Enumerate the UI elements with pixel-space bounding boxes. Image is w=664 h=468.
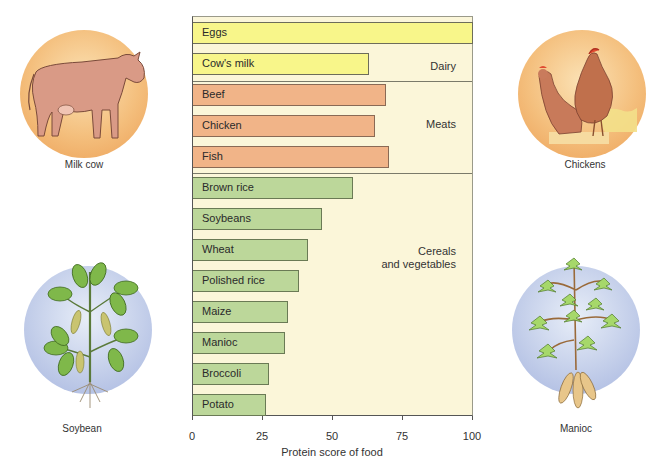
bar-label: Soybeans <box>202 212 251 224</box>
bar-label: Fish <box>202 150 223 162</box>
milk-cow-caption: Milk cow <box>65 159 103 170</box>
tick-label-50: 50 <box>326 430 338 442</box>
bar-polished-rice: Polished rice <box>193 270 299 292</box>
chart-plot-area: Dairy Meats Cereals and vegetables EggsC… <box>192 16 473 416</box>
manioc-plant-icon <box>512 250 642 415</box>
bar-wheat: Wheat <box>193 239 308 261</box>
soybean-caption: Soybean <box>62 423 101 434</box>
bar-label: Maize <box>202 305 231 317</box>
divider-meats-cereals <box>193 173 472 174</box>
tick-50 <box>332 416 333 420</box>
group-label-cereals-line1: Cereals <box>381 245 456 258</box>
bar-label: Wheat <box>202 243 234 255</box>
chicken-icon <box>525 36 645 146</box>
tick-label-0: 0 <box>189 430 195 442</box>
bar-fish: Fish <box>193 146 389 168</box>
x-axis-label: Protein score of food <box>281 446 383 458</box>
bar-beef: Beef <box>193 84 386 106</box>
bar-label: Broccoli <box>202 367 241 379</box>
tick-100 <box>472 416 473 420</box>
tick-0 <box>192 416 193 420</box>
tick-label-100: 100 <box>463 430 481 442</box>
bar-eggs: Eggs <box>193 22 473 44</box>
bar-maize: Maize <box>193 301 288 323</box>
bar-cow-s-milk: Cow's milk <box>193 53 369 75</box>
group-label-dairy: Dairy <box>430 60 456 73</box>
group-label-meats: Meats <box>426 118 456 131</box>
chickens-caption: Chickens <box>564 159 605 170</box>
tick-label-25: 25 <box>256 430 268 442</box>
tick-25 <box>262 416 263 420</box>
bar-label: Potato <box>202 398 234 410</box>
bar-brown-rice: Brown rice <box>193 177 353 199</box>
tick-label-75: 75 <box>396 430 408 442</box>
bar-broccoli: Broccoli <box>193 363 269 385</box>
divider-dairy-meats <box>193 81 472 82</box>
group-label-cereals-line2: and vegetables <box>381 258 456 271</box>
bar-label: Polished rice <box>202 274 265 286</box>
bar-potato: Potato <box>193 394 266 416</box>
bar-label: Cow's milk <box>202 57 254 69</box>
bar-manioc: Manioc <box>193 332 285 354</box>
group-label-cereals: Cereals and vegetables <box>381 245 456 271</box>
bar-soybeans: Soybeans <box>193 208 322 230</box>
bar-label: Brown rice <box>202 181 254 193</box>
tick-75 <box>402 416 403 420</box>
bar-label: Chicken <box>202 119 242 131</box>
bar-label: Eggs <box>202 26 227 38</box>
cow-icon <box>22 44 152 144</box>
soybean-plant-icon <box>30 252 150 412</box>
bar-chicken: Chicken <box>193 115 375 137</box>
bar-label: Manioc <box>202 336 237 348</box>
manioc-caption: Manioc <box>560 423 592 434</box>
bar-label: Beef <box>202 88 225 100</box>
